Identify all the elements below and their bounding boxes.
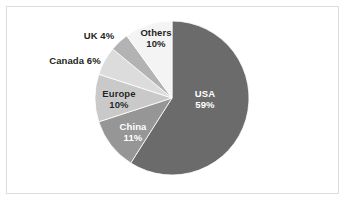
- slice-label-usa: USA 59%: [178, 89, 232, 110]
- slice-label-china-value: 11%: [108, 133, 158, 144]
- slice-label-canada-value: 6%: [87, 55, 101, 66]
- slice-label-europe-value: 10%: [90, 100, 148, 111]
- slice-label-canada: Canada 6%: [32, 56, 118, 67]
- slice-label-uk-value: 4%: [100, 30, 114, 41]
- slice-label-usa-value: 59%: [178, 100, 232, 111]
- slice-label-china: China 11%: [108, 122, 158, 143]
- slice-label-canada-name: Canada: [49, 55, 84, 66]
- slice-label-uk: UK 4%: [64, 31, 134, 42]
- slice-label-others-value: 10%: [130, 39, 182, 50]
- slice-label-europe: Europe 10%: [90, 89, 148, 110]
- pie-chart: USA 59% China 11% Europe 10% Canada 6% U…: [0, 0, 347, 202]
- pie-chart-screenshot: USA 59% China 11% Europe 10% Canada 6% U…: [0, 0, 347, 202]
- slice-label-others: Others 10%: [130, 28, 182, 49]
- slice-label-uk-name: UK: [84, 30, 98, 41]
